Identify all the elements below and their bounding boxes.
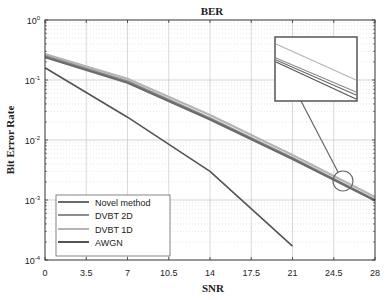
x-tick-label: 21 (287, 268, 297, 278)
legend: Novel methodDVBT 2DDVBT 1DAWGN (56, 195, 170, 256)
x-tick-label: 3.5 (80, 268, 93, 278)
x-tick-label: 0 (42, 268, 47, 278)
legend-label: DVBT 2D (95, 211, 133, 221)
x-tick-label: 24.5 (325, 268, 343, 278)
x-tick-label: 17.5 (242, 268, 260, 278)
y-axis-title: Bit Error Rate (4, 106, 16, 175)
x-tick-labels: 03.5710.51417.52124.528 (42, 268, 380, 278)
x-tick-label: 10.5 (160, 268, 178, 278)
inset-box (275, 37, 357, 101)
x-tick-label: 28 (370, 268, 380, 278)
x-axis-title: SNR (202, 282, 225, 294)
legend-label: AWGN (95, 238, 123, 248)
y-tick-labels: 10010-110-210-310-4 (25, 15, 41, 266)
y-tick-label: 10-3 (25, 195, 41, 206)
y-tick-label: 100 (27, 15, 41, 26)
ber-chart: 03.5710.51417.52124.528 10010-110-210-31… (0, 0, 388, 300)
x-tick-label: 7 (125, 268, 130, 278)
legend-label: Novel method (95, 198, 151, 208)
chart-title: BER (201, 5, 225, 17)
y-tick-label: 10-1 (25, 75, 41, 86)
legend-label: DVBT 1D (95, 225, 133, 235)
x-tick-label: 14 (205, 268, 215, 278)
y-tick-label: 10-2 (25, 135, 41, 146)
y-tick-label: 10-4 (25, 255, 41, 266)
